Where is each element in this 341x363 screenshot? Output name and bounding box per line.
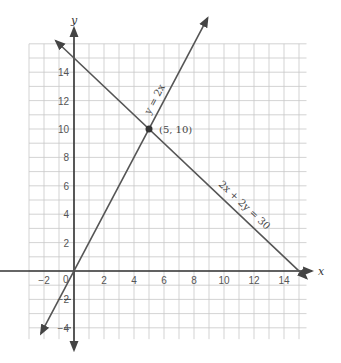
y-tick-label: 2 [63,238,69,249]
grid [29,44,307,339]
line1-label: y = 2x [142,82,168,117]
intersection-point [146,126,153,133]
x-axis-label: x [318,265,325,278]
x-tick-label: 4 [131,275,137,286]
y-axis-label: y [70,14,78,27]
y-tick-label: 6 [63,181,69,192]
x-tick-label: 6 [161,275,167,286]
y-tick-label: 12 [58,96,70,107]
x-tick-label: −2 [38,275,50,286]
lines [41,18,307,333]
coordinate-plot: −22468101214−4−22468101214 x y 0 (5, 10)… [0,0,341,363]
y-tick-label: 10 [58,124,70,135]
line-1 [41,18,208,333]
y-tick-label: 4 [63,209,69,220]
x-tick-label: 10 [218,275,230,286]
intersection-label: (5, 10) [159,124,192,135]
x-tick-label: 8 [191,275,197,286]
x-tick-label: 12 [248,275,260,286]
x-tick-label: 2 [101,275,107,286]
axes [0,28,312,350]
line2-label: 2x + 2y = 30 [217,178,273,231]
origin-label: 0 [63,274,69,285]
y-tick-label: 14 [58,67,70,78]
y-tick-label: 8 [63,152,69,163]
x-tick-label: 14 [278,275,290,286]
